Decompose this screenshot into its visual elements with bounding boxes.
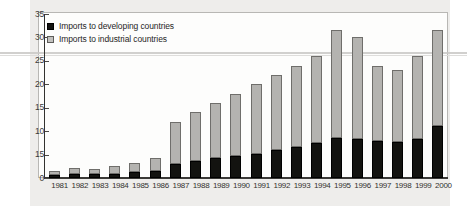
bar-segment-developing — [271, 150, 282, 178]
bar-segment-industrial — [109, 166, 120, 173]
y-tick: 25 — [14, 56, 44, 65]
bar-segment-developing — [150, 171, 161, 178]
legend-item-developing: Imports to developing countries — [47, 20, 267, 32]
bar-column — [352, 14, 363, 178]
bar-segment-developing — [109, 174, 120, 178]
bar-segment-developing — [331, 138, 342, 178]
y-tick: 20 — [14, 80, 44, 89]
chart-figure: 015101520253035 198119821983198419851986… — [0, 0, 467, 206]
legend-swatch-industrial-icon — [47, 36, 54, 43]
y-tick: 15 — [14, 103, 44, 112]
bar-segment-industrial — [230, 94, 241, 157]
y-tick: 35 — [14, 10, 44, 19]
legend-label-industrial: Imports to industrial countries — [59, 34, 167, 44]
bar-segment-developing — [392, 142, 403, 178]
bar-segment-industrial — [129, 163, 140, 173]
y-tick: 15 — [14, 150, 44, 159]
bar-column — [331, 14, 342, 178]
bar-segment-developing — [129, 172, 140, 178]
y-tick: 30 — [14, 33, 44, 42]
bar-column — [291, 14, 302, 178]
bar-segment-industrial — [251, 84, 262, 153]
y-tick-label: 15 — [18, 150, 44, 159]
bar-column — [372, 14, 383, 178]
bar-segment-industrial — [210, 103, 221, 158]
bar-column — [271, 14, 282, 178]
bar-segment-developing — [190, 161, 201, 178]
bar-segment-industrial — [271, 75, 282, 150]
y-tick: 10 — [14, 127, 44, 136]
bar-segment-industrial — [311, 56, 322, 143]
bar-segment-industrial — [331, 30, 342, 137]
bar-segment-developing — [49, 175, 60, 178]
y-tick-label: 25 — [18, 56, 44, 65]
y-tick-label: 20 — [18, 80, 44, 89]
y-tick-label: 35 — [18, 10, 44, 19]
bar-segment-developing — [210, 158, 221, 178]
bar-segment-industrial — [372, 66, 383, 142]
bar-column — [392, 14, 403, 178]
bar-segment-developing — [89, 174, 100, 178]
bar-segment-developing — [372, 141, 383, 178]
y-tick-label: 15 — [18, 103, 44, 112]
bar-segment-developing — [432, 126, 443, 178]
bar-column — [432, 14, 443, 178]
bar-segment-developing — [412, 139, 423, 178]
x-tick-label: 2000 — [428, 181, 458, 191]
bar-segment-industrial — [170, 122, 181, 164]
bar-column — [311, 14, 322, 178]
bar-segment-developing — [69, 174, 80, 178]
bar-segment-industrial — [190, 112, 201, 161]
y-tick-label: 0 — [18, 174, 44, 183]
bar-segment-industrial — [352, 37, 363, 138]
bar-column — [412, 14, 423, 178]
chart-legend: Imports to developing countries Imports … — [47, 20, 267, 46]
y-tick: 0 — [14, 174, 44, 183]
bar-segment-developing — [170, 164, 181, 178]
y-tick-label: 10 — [18, 127, 44, 136]
legend-swatch-developing-icon — [47, 23, 54, 30]
bar-segment-industrial — [150, 158, 161, 170]
bar-segment-industrial — [432, 30, 443, 126]
bar-segment-developing — [251, 154, 262, 178]
bar-segment-developing — [311, 143, 322, 178]
y-tick-mark — [45, 178, 49, 179]
legend-item-industrial: Imports to industrial countries — [47, 33, 267, 45]
y-tick-label: 30 — [18, 33, 44, 42]
bar-segment-industrial — [392, 70, 403, 142]
bar-segment-developing — [291, 147, 302, 178]
bar-segment-developing — [352, 139, 363, 178]
bar-segment-industrial — [412, 56, 423, 138]
bar-segment-industrial — [291, 66, 302, 148]
legend-label-developing: Imports to developing countries — [59, 21, 174, 31]
bar-segment-developing — [230, 156, 241, 178]
